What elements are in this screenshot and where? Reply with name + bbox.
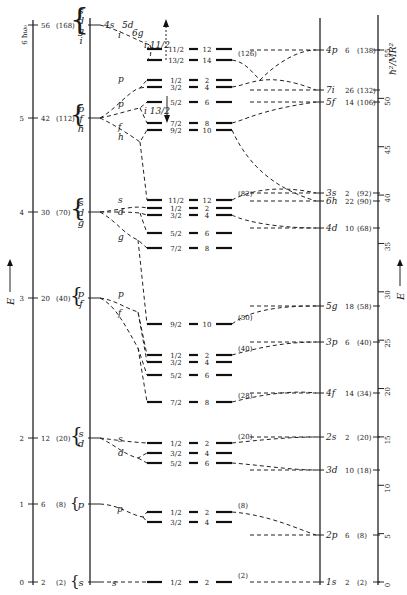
right-level-label: 2p xyxy=(325,530,338,540)
level-j-label: 1/2 xyxy=(170,77,181,85)
branch-connector xyxy=(100,298,147,375)
right-level-degeneracy: 2 xyxy=(345,190,349,198)
level-degeneracy: 6 xyxy=(205,372,210,380)
branch-connector xyxy=(232,102,316,123)
left-shell-cumulative: (70) xyxy=(56,209,71,217)
branch-connector xyxy=(138,312,147,362)
right-level-degeneracy: 22 xyxy=(345,198,354,206)
right-level-degeneracy: 10 xyxy=(345,467,354,475)
branch-connector xyxy=(232,512,316,535)
right-axis-tick-label: 35 xyxy=(384,242,392,251)
branch-label: p xyxy=(117,504,123,514)
left-brace: { xyxy=(70,283,83,307)
left-shell-label: 2 xyxy=(20,435,24,443)
right-level-label: 4d xyxy=(325,223,338,233)
magic-number: (8) xyxy=(238,502,248,510)
branch-label: s xyxy=(118,434,123,444)
level-j-label: 13/2 xyxy=(168,57,184,65)
branch-connector xyxy=(100,438,147,443)
level-j-label: 1/2 xyxy=(170,509,181,517)
top-label-i11-2: i 11/2 xyxy=(144,40,170,50)
branch-connector xyxy=(138,458,147,463)
level-degeneracy: 10 xyxy=(203,321,212,329)
branch-label: i xyxy=(118,30,121,40)
right-axis-arrow-icon xyxy=(397,259,403,266)
left-shell-degeneracy: 42 xyxy=(41,115,50,123)
right-level-label: 4p xyxy=(325,45,338,55)
right-level-label: 3d xyxy=(326,465,338,475)
level-j-label: 3/2 xyxy=(170,212,181,220)
top-label-4s: 4s xyxy=(103,20,115,30)
level-degeneracy: 6 xyxy=(205,230,210,238)
level-degeneracy: 4 xyxy=(205,450,210,458)
level-degeneracy: 4 xyxy=(205,84,210,92)
right-level-degeneracy: 14 xyxy=(345,99,354,107)
right-axis-ticks: 0510152025303540455055 xyxy=(378,49,392,588)
level-j-label: 1/2 xyxy=(170,440,181,448)
left-shell-label: 0 xyxy=(20,579,24,587)
level-degeneracy: 2 xyxy=(205,352,209,360)
left-shell-cumulative: (40) xyxy=(56,295,71,303)
right-level-label: 4f xyxy=(325,388,337,398)
right-level-label: 5f xyxy=(326,97,337,107)
right-axis-tick-label: 50 xyxy=(384,97,392,106)
right-level-cumulative: (132) xyxy=(357,87,376,95)
level-j-label: 11/2 xyxy=(168,197,184,205)
left-shell-degeneracy: 20 xyxy=(41,295,50,303)
right-level-cumulative: (2) xyxy=(357,579,367,587)
branch-label: f xyxy=(117,308,123,318)
level-j-label: 9/2 xyxy=(170,321,181,329)
branch-connector xyxy=(100,298,147,355)
level-j-label: 1/2 xyxy=(170,205,181,213)
right-level-label: 5g xyxy=(326,301,338,311)
left-shell-group: 02(2)s{16(8)p{212(20)sd{320(40)pf{430(70… xyxy=(20,1,100,590)
left-axis-arrow-icon xyxy=(7,259,13,266)
left-shell-degeneracy: 30 xyxy=(41,209,50,217)
up-arrow-head-icon xyxy=(163,19,169,27)
level-degeneracy: 12 xyxy=(203,46,212,54)
left-shell-label: 1 xyxy=(20,501,24,509)
right-level-degeneracy: 10 xyxy=(345,225,354,233)
level-degeneracy: 2 xyxy=(205,205,209,213)
level-degeneracy: 6 xyxy=(205,460,210,468)
right-level-cumulative: (58) xyxy=(357,303,372,311)
branch-connector xyxy=(232,80,316,90)
level-degeneracy: 4 xyxy=(205,519,210,527)
magic-number: (50) xyxy=(238,314,253,322)
branch-label: s xyxy=(112,578,117,588)
level-degeneracy: 2 xyxy=(205,579,209,587)
right-axis-tick-label: 15 xyxy=(384,435,392,444)
left-shell-degeneracy: 2 xyxy=(41,579,45,587)
branch-connector xyxy=(140,142,147,200)
left-brace: { xyxy=(70,423,83,447)
branch-label: d xyxy=(118,207,124,217)
right-level-cumulative: (18) xyxy=(357,467,372,475)
left-shell-degeneracy: 56 xyxy=(41,22,50,30)
right-level-cumulative: (20) xyxy=(357,434,372,442)
left-brace: { xyxy=(70,1,89,36)
level-degeneracy: 10 xyxy=(203,127,212,135)
right-level-group: 1s2(2)2p6(8)3d10(18)2s2(20)4f14(34)3p6(4… xyxy=(250,45,380,587)
level-degeneracy: 8 xyxy=(205,120,209,128)
level-degeneracy: 2 xyxy=(205,440,209,448)
left-brace: { xyxy=(70,193,86,222)
down-arrow-head-icon xyxy=(164,115,170,123)
right-level-degeneracy: 6 xyxy=(345,532,350,540)
level-j-label: 11/2 xyxy=(168,46,184,54)
left-shell-label: 4 xyxy=(20,209,25,217)
left-axis-title: E xyxy=(5,297,16,306)
branch-label: p xyxy=(118,289,124,299)
right-axis-tick-label: 0 xyxy=(384,583,392,587)
magic-number: (40) xyxy=(238,345,253,353)
left-brace: { xyxy=(70,99,86,128)
branch-label: f xyxy=(117,122,123,132)
branch-label: g xyxy=(118,232,124,242)
branch-connector xyxy=(232,463,316,470)
level-degeneracy: 4 xyxy=(205,212,210,220)
right-axis-tick-label: 20 xyxy=(384,387,392,396)
right-axis-tick-label: 10 xyxy=(384,484,392,493)
level-j-label: 3/2 xyxy=(170,450,181,458)
level-j-label: 9/2 xyxy=(170,127,181,135)
level-j-label: 7/2 xyxy=(170,399,181,407)
level-j-label: 5/2 xyxy=(170,372,181,380)
